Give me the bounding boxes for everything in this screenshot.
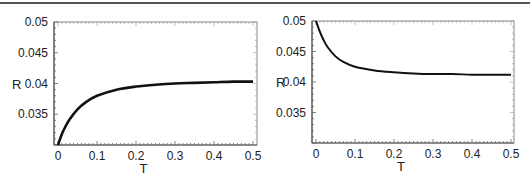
y-tick-label: 0.035: [18, 107, 48, 121]
y-tick-label: 0.04: [25, 77, 49, 91]
y-tick-label: 0.045: [18, 46, 48, 60]
y-tick-label: 0.05: [25, 15, 49, 29]
x-tick-label: 0.5: [503, 147, 520, 161]
y-axis-title: R: [276, 75, 285, 90]
x-tick-label: 0.3: [167, 149, 184, 163]
chart-right: 00.10.20.30.40.50.0350.040.0450.05TR: [276, 14, 520, 174]
data-line: [58, 82, 253, 145]
y-tick-label: 0.045: [276, 45, 306, 59]
y-axis-title: R: [12, 77, 21, 92]
x-tick-label: 0.4: [206, 149, 223, 163]
x-tick-label: 0: [313, 147, 320, 161]
x-tick-label: 0.1: [347, 147, 364, 161]
x-tick-label: 0.5: [245, 149, 262, 163]
y-tick-label: 0.04: [283, 75, 307, 89]
charts-canvas: 00.10.20.30.40.50.0350.040.0450.05TR 00.…: [0, 0, 530, 174]
plot-frame: [312, 21, 514, 143]
data-line: [316, 21, 511, 75]
y-tick-label: 0.035: [276, 106, 306, 120]
x-axis-title: T: [397, 159, 405, 174]
y-tick-label: 0.05: [283, 14, 307, 28]
x-tick-label: 0.4: [464, 147, 481, 161]
x-tick-label: 0.3: [425, 147, 442, 161]
x-axis-title: T: [140, 161, 148, 174]
x-tick-label: 0.1: [89, 149, 106, 163]
chart-left: 00.10.20.30.40.50.0350.040.0450.05TR: [12, 15, 262, 174]
x-tick-label: 0: [55, 149, 62, 163]
